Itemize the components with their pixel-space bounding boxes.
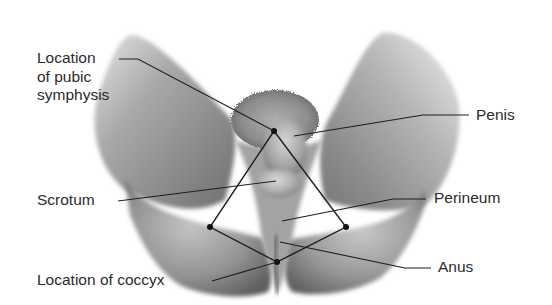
label-scrotum: Scrotum	[37, 191, 95, 210]
label-perineum: Perineum	[434, 189, 500, 208]
right-ischial-point	[343, 224, 349, 230]
left-ischial-point	[207, 224, 213, 230]
label-pubic-symphysis: Location of pubic symphysis	[37, 49, 109, 105]
label-penis: Penis	[476, 106, 515, 125]
right-thigh	[320, 33, 460, 211]
label-pubic-symphysis-line1: Location	[37, 49, 109, 68]
label-pubic-symphysis-line3: symphysis	[37, 86, 109, 105]
label-coccyx: Location of coccyx	[37, 271, 165, 290]
left-thigh	[94, 35, 235, 209]
label-anus: Anus	[438, 258, 473, 277]
label-pubic-symphysis-line2: of pubic	[37, 68, 109, 87]
